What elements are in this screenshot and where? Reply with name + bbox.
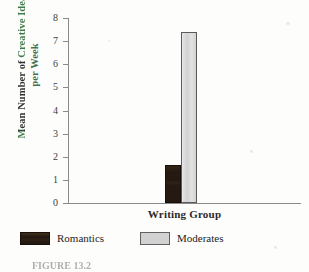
y-tick-mark xyxy=(63,180,68,181)
y-tick-label: 8 xyxy=(44,13,58,23)
y-tick-label: 3 xyxy=(44,129,58,139)
y-axis-title-line2: per Week xyxy=(28,0,41,165)
y-tick-label: 0 xyxy=(44,198,58,208)
figure-bar-chart: 876543210 Mean Number of Creative Ideas … xyxy=(0,0,309,272)
y-axis-title-line1: Mean Number of Creative Ideas xyxy=(15,0,28,165)
y-tick-label: 5 xyxy=(44,82,58,92)
y-tick-mark xyxy=(63,41,68,42)
y-tick-label: 7 xyxy=(44,36,58,46)
legend-item-moderates: Moderates xyxy=(140,232,223,245)
legend-item-romantics: Romantics xyxy=(20,232,104,245)
y-tick-label: 6 xyxy=(44,59,58,69)
y-tick-mark xyxy=(63,64,68,65)
y-axis-title: Mean Number of Creative Ideas per Week xyxy=(15,0,41,165)
figure-caption-text: FIGURE 13.2 xyxy=(32,262,91,271)
legend-swatch-romantics xyxy=(20,232,50,245)
legend-swatch-moderates xyxy=(140,232,170,245)
y-tick-label: 2 xyxy=(44,152,58,162)
y-tick-mark xyxy=(63,18,68,19)
y-tick-label: 4 xyxy=(44,106,58,116)
y-axis-line xyxy=(68,18,69,204)
x-axis-line xyxy=(68,203,301,204)
y-tick-mark xyxy=(63,87,68,88)
x-axis-title: Writing Group xyxy=(68,208,301,220)
bar-romantics xyxy=(165,165,181,203)
figure-caption-clipped: FIGURE 13.2 xyxy=(0,262,309,272)
y-tick-mark xyxy=(63,157,68,158)
legend-label-romantics: Romantics xyxy=(57,233,104,244)
y-tick-mark xyxy=(63,134,68,135)
legend-label-moderates: Moderates xyxy=(177,233,223,244)
y-tick-mark xyxy=(63,111,68,112)
y-tick-mark xyxy=(63,203,68,204)
y-tick-label: 1 xyxy=(44,175,58,185)
bar-moderates xyxy=(181,32,197,203)
y-tick-1: 1 xyxy=(0,180,68,181)
chart-legend: RomanticsModerates xyxy=(0,232,309,254)
y-tick-0: 0 xyxy=(0,203,68,204)
